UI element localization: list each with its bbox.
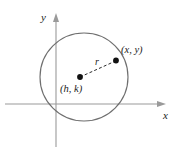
center-point-label: (h, k) [60, 84, 82, 95]
y-axis-arrowhead-icon [53, 13, 59, 22]
x-axis-label: x [163, 110, 168, 121]
y-axis-label: y [41, 12, 46, 23]
diagram-canvas [0, 0, 179, 162]
circle-point-marker [113, 58, 119, 64]
center-point-marker [77, 74, 83, 80]
circle-diagram-figure: y x (h, k) (x, y) r [0, 0, 179, 162]
radius-label: r [95, 57, 99, 67]
circle-point-label: (x, y) [121, 45, 143, 56]
circle-outline [40, 33, 128, 121]
x-axis-arrowhead-icon [157, 101, 166, 107]
